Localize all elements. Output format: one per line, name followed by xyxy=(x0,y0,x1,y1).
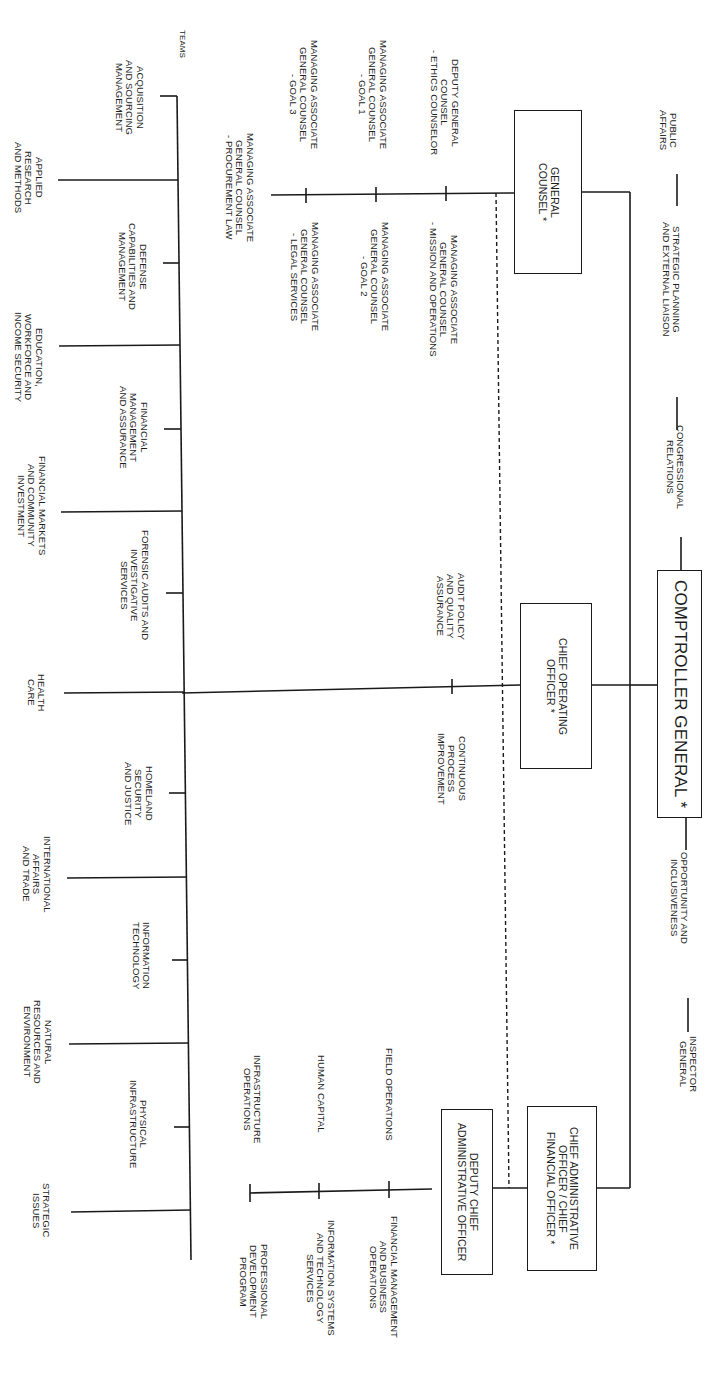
staff-office-congressional-relations: CONGRESSIONAL RELATIONS xyxy=(664,425,685,509)
team-financial-markets[interactable]: FINANCIAL MARKETS AND COMMUNITY INVESTME… xyxy=(15,456,47,556)
dcao-unit-professional-development: PROFESSIONAL DEVELOPMENT PROGRAM xyxy=(237,1244,269,1319)
teams-heading: TEAMS xyxy=(178,30,187,58)
connector-lines xyxy=(0,0,722,1377)
chief-administrative-officer-label: CHIEF ADMINISTRATIVE OFFICER / CHIEF FIN… xyxy=(545,1127,580,1250)
team-international-affairs[interactable]: INTERNATIONAL AFFAIRS AND TRADE xyxy=(20,836,52,913)
gc-unit-goal-3: MANAGING ASSOCIATE GENERAL COUNSEL - GOA… xyxy=(287,40,319,149)
comptroller-general-box[interactable]: COMPTROLLER GENERAL * xyxy=(657,570,702,818)
team-acquisition-sourcing[interactable]: ACQUISITION AND SOURCING MANAGEMENT xyxy=(113,60,145,135)
dcao-unit-financial-management-business-ops: FINANCIAL MANAGEMENT AND BUSINESS OPERAT… xyxy=(367,1216,399,1338)
team-forensic-audits[interactable]: FORENSIC AUDITS AND INVESTIGATIVE SERVIC… xyxy=(118,530,150,640)
org-chart: PUBLIC AFFAIRS STRATEGIC PLANNING AND EX… xyxy=(0,0,722,1377)
team-homeland-security[interactable]: HOMELAND SECURITY AND JUSTICE xyxy=(122,762,154,825)
team-strategic-issues[interactable]: STRATEGIC ISSUES xyxy=(30,1183,51,1238)
general-counsel-label: GENERAL COUNSEL * xyxy=(537,163,560,221)
comptroller-general-label: COMPTROLLER GENERAL * xyxy=(671,580,689,808)
team-defense-capabilities[interactable]: DEFENSE CAPABILITIES AND MANAGEMENT xyxy=(116,223,148,310)
staff-office-opportunity-inclusiveness: OPPORTUNITY AND INCLUSIVENESS xyxy=(668,852,689,944)
team-education-workforce[interactable]: EDUCATION, WORKFORCE AND INCOME SECURITY xyxy=(12,312,44,402)
gc-unit-deputy-general-counsel: DEPUTY GENERAL COUNSEL - ETHICS COUNSELO… xyxy=(428,50,460,155)
dcao-unit-field-operations: FIELD OPERATIONS xyxy=(383,1048,394,1141)
team-information-technology[interactable]: INFORMATION TECHNOLOGY xyxy=(130,922,151,990)
team-physical-infrastructure[interactable]: PHYSICAL INFRASTRUCTURE xyxy=(127,1080,148,1168)
dcao-unit-human-capital: HUMAN CAPITAL xyxy=(315,1055,326,1133)
team-health-care[interactable]: HEALTH CARE xyxy=(25,674,46,711)
chief-operating-officer-box[interactable]: CHIEF OPERATING OFFICER * xyxy=(520,603,592,769)
coo-unit-audit-policy: AUDIT POLICY AND QUALITY ASSURANCE xyxy=(434,573,466,640)
gc-unit-mission-operations: MANAGING ASSOCIATE GENERAL COUNSEL - MIS… xyxy=(427,222,459,357)
dcao-unit-infrastructure-operations: INFRASTRUCTURE OPERATIONS xyxy=(241,1055,262,1143)
gc-unit-procurement-law: MANAGING ASSOCIATE GENERAL COUNSEL - PRO… xyxy=(223,133,255,242)
team-applied-research[interactable]: APPLIED RESEARCH AND METHODS xyxy=(12,142,44,213)
chief-administrative-officer-box[interactable]: CHIEF ADMINISTRATIVE OFFICER / CHIEF FIN… xyxy=(527,1106,597,1271)
coo-unit-continuous-process-improvement: CONTINUOUS PROCESS IMPROVEMENT xyxy=(435,733,467,805)
general-counsel-box[interactable]: GENERAL COUNSEL * xyxy=(514,110,582,274)
team-financial-management-assurance[interactable]: FINANCIAL MANAGEMENT AND ASSURANCE xyxy=(117,386,149,469)
gc-unit-goal-2: MANAGING ASSOCIATE GENERAL COUNSEL - GOA… xyxy=(358,222,390,331)
gc-unit-goal-1: MANAGING ASSOCIATE GENERAL COUNSEL - GOA… xyxy=(356,40,388,149)
staff-office-strategic-planning: STRATEGIC PLANNING AND EXTERNAL LIAISON xyxy=(660,222,681,337)
team-natural-resources[interactable]: NATURAL RESOURCES AND ENVIRONMENT xyxy=(21,1000,53,1084)
dcao-unit-information-systems-technology: INFORMATION SYSTEMS AND TECHNOLOGY SERVI… xyxy=(304,1220,336,1336)
chief-operating-officer-label: CHIEF OPERATING OFFICER * xyxy=(545,638,568,735)
deputy-cao-label: DEPUTY CHIEF ADMINISTRATIVE OFFICER xyxy=(456,1123,479,1262)
gc-unit-legal-services: MANAGING ASSOCIATE GENERAL COUNSEL - LEG… xyxy=(288,222,320,331)
staff-office-public-affairs: PUBLIC AFFAIRS xyxy=(657,110,678,150)
staff-office-inspector-general: INSPECTOR GENERAL xyxy=(677,1036,698,1092)
deputy-cao-box[interactable]: DEPUTY CHIEF ADMINISTRATIVE OFFICER xyxy=(441,1109,493,1275)
